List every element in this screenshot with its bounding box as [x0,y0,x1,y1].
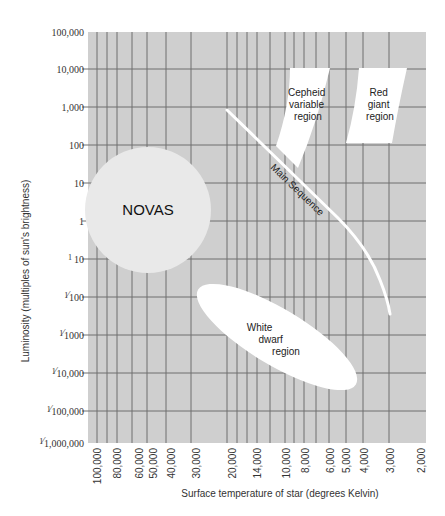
svg-text:1⁄10,000: 1⁄10,000 [52,365,84,379]
svg-text:110: 110 [68,253,84,265]
y-axis-title: Luminosity (multiples of sun's brightnes… [20,180,31,363]
svg-text:10,000: 10,000 [57,64,85,75]
x-axis-title: Surface temperature of star (degrees Kel… [181,488,378,499]
svg-text:40,000: 40,000 [166,448,177,479]
svg-text:100,000: 100,000 [92,448,103,485]
svg-text:100,000: 100,000 [52,27,85,38]
svg-text:10,000: 10,000 [281,448,292,479]
svg-text:8,000: 8,000 [300,448,311,473]
svg-text:2,000: 2,000 [416,448,427,473]
svg-text:30,000: 30,000 [191,448,202,479]
svg-text:80,000: 80,000 [112,448,123,479]
svg-text:1⁄100,000: 1⁄100,000 [47,403,84,417]
svg-text:20,000: 20,000 [227,448,238,479]
svg-text:1,000: 1,000 [62,102,85,113]
svg-text:5,000: 5,000 [341,448,352,473]
svg-text:1⁄1,000,000: 1⁄1,000,000 [39,435,84,449]
svg-text:1: 1 [79,216,84,227]
svg-text:100: 100 [69,140,84,151]
red-giant-label: Red giant region [366,87,394,122]
svg-text:3,000: 3,000 [385,448,396,473]
svg-text:50,000: 50,000 [148,448,159,479]
svg-text:60,000: 60,000 [134,448,145,479]
svg-text:4,000: 4,000 [359,448,370,473]
svg-text:1⁄1000: 1⁄1000 [59,327,84,341]
svg-text:10: 10 [74,178,84,189]
svg-text:6,000: 6,000 [325,448,336,473]
svg-text:14,000: 14,000 [252,448,263,479]
svg-text:1⁄100: 1⁄100 [64,289,84,303]
y-axis-ticks: 100,000 10,000 1,000 100 10 1 110 1⁄100 … [39,27,84,449]
novas-label: NOVAS [122,201,173,218]
x-axis-ticks: 100,000 80,000 60,000 50,000 40,000 30,0… [92,448,427,485]
hr-diagram-chart: NOVAS Cepheid variable region Red giant … [0,0,445,516]
